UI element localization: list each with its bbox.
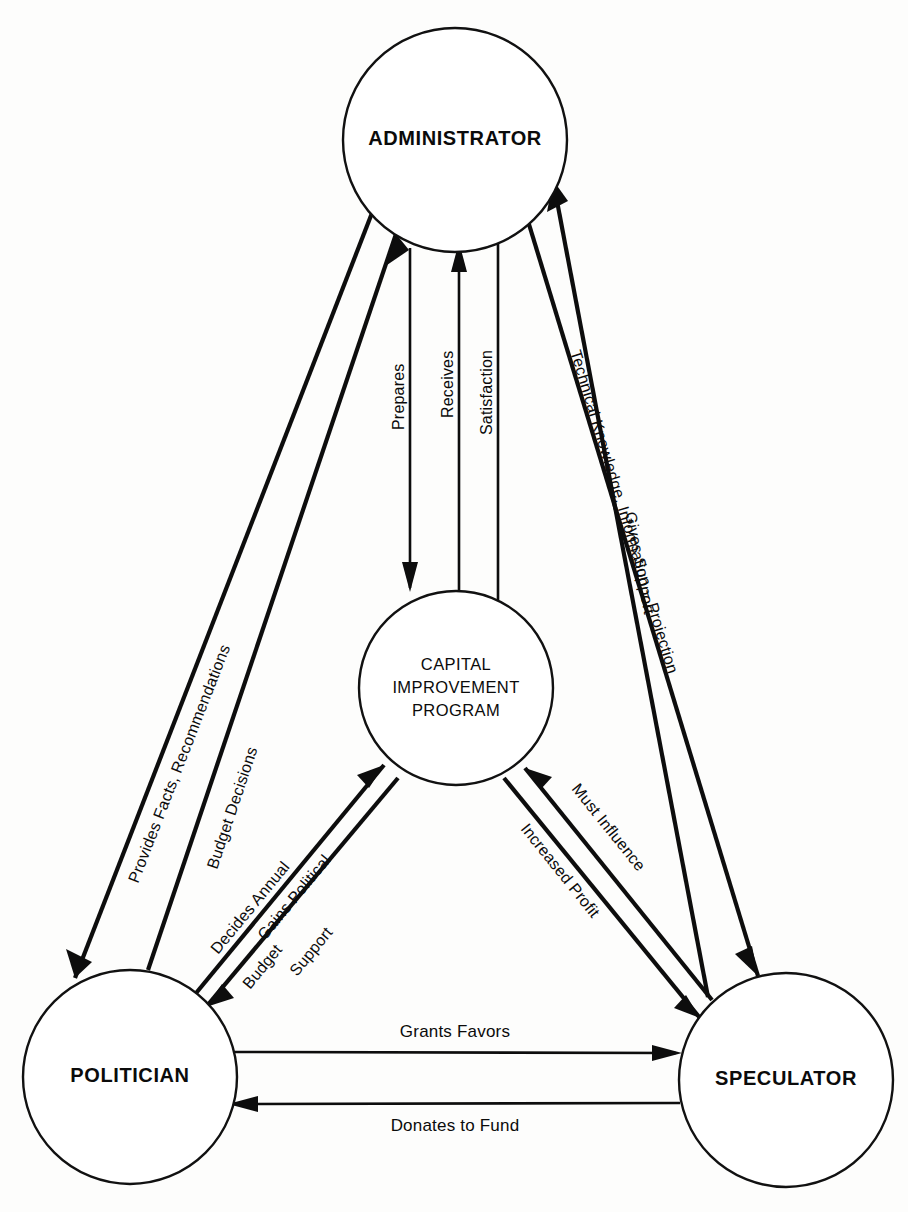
edge-label-prepares: Prepares	[390, 363, 407, 430]
node-capital-improvement-program[interactable]: CAPITAL IMPROVEMENT PROGRAM	[359, 591, 553, 785]
edge-satisfaction: Satisfaction	[478, 236, 498, 600]
edge-label-must-influence: Must Influence	[569, 780, 649, 874]
node-politician[interactable]: POLITICIAN	[23, 970, 237, 1184]
edge-label-satisfaction: Satisfaction	[478, 350, 495, 435]
edge-label-technical-knowledge: Technical Knowledge, Information – Proje…	[567, 348, 681, 676]
increased-profit-arrowhead	[674, 995, 700, 1018]
edge-label-decides-annual-budget-line2: Budget	[239, 941, 285, 992]
edge-label-gains-political-support-line2: Support	[286, 923, 336, 978]
budget-decisions-line	[148, 234, 396, 970]
edge-donates-to-fund: Donates to Fund	[228, 1096, 680, 1135]
capital-improvement-program-label-line3: PROGRAM	[412, 701, 500, 719]
must-influence-line	[525, 768, 712, 1000]
edge-label-receives: Receives	[439, 351, 456, 418]
relationship-diagram: Provides Facts, Recommendations Budget D…	[0, 0, 908, 1212]
edge-must-influence: Must Influence	[525, 768, 712, 1000]
capital-improvement-program-label-line2: IMPROVEMENT	[392, 678, 519, 696]
prepares-arrowhead	[402, 562, 418, 592]
edge-grants-favors: Grants Favors	[228, 1022, 682, 1061]
edge-label-grants-favors: Grants Favors	[400, 1022, 510, 1041]
grants-favors-arrowhead	[652, 1045, 682, 1061]
edge-receives: Receives	[439, 242, 467, 592]
gains-political-support-arrowhead	[206, 984, 234, 1007]
technical-knowledge-arrowhead	[735, 946, 758, 976]
decides-annual-budget-line	[192, 765, 384, 998]
donates-to-fund-line	[234, 1103, 680, 1104]
node-administrator[interactable]: ADMINISTRATOR	[343, 28, 567, 252]
provides-facts-arrowhead	[66, 949, 92, 978]
diagram-canvas: Provides Facts, Recommendations Budget D…	[0, 0, 908, 1212]
edge-label-donates-to-fund: Donates to Fund	[391, 1116, 520, 1135]
edge-label-increased-profit: Increased Profit	[518, 820, 604, 921]
node-speculator[interactable]: SPECULATOR	[679, 973, 893, 1187]
speculator-label: SPECULATOR	[715, 1067, 857, 1089]
capital-improvement-program-label-line1: CAPITAL	[421, 655, 491, 673]
politician-label: POLITICIAN	[70, 1064, 189, 1086]
decides-annual-budget-arrowhead	[357, 765, 384, 788]
gives-support-line	[553, 180, 708, 997]
edge-decides-annual-budget: Decides Annual Budget	[192, 765, 384, 998]
edge-prepares: Prepares	[390, 248, 418, 592]
administrator-label: ADMINISTRATOR	[368, 127, 542, 149]
edge-label-budget-decisions: Budget Decisions	[204, 744, 261, 870]
grants-favors-line	[228, 1052, 676, 1053]
